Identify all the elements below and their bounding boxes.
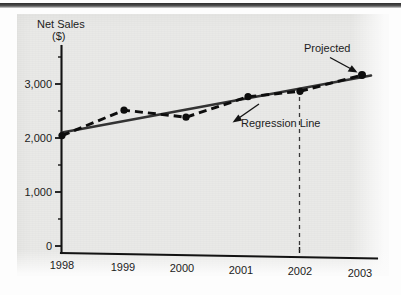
data-point-2000 — [182, 114, 189, 121]
data-point-1999 — [120, 107, 127, 114]
regression-line-series — [62, 76, 371, 133]
projected-annotation-label: Projected — [304, 42, 350, 54]
y-tick-label-1000: 1,000 — [24, 186, 52, 198]
data-point-2001 — [244, 93, 251, 100]
figure-page: Net Sales ($) 3,000 2,000 1,000 0 1998 1… — [0, 0, 401, 295]
y-axis-title-line1: Net Sales — [37, 18, 85, 30]
data-point-1998 — [58, 132, 65, 139]
x-axis-line — [61, 253, 377, 259]
net-sales-line-chart: Net Sales ($) 3,000 2,000 1,000 0 1998 1… — [0, 0, 401, 295]
y-tick-label-3000: 3,000 — [24, 78, 52, 90]
data-point-2003 — [358, 71, 366, 79]
x-tick-label-2002: 2002 — [288, 265, 312, 277]
x-tick-label-1998: 1998 — [50, 259, 74, 271]
y-tick-label-2000: 2,000 — [24, 132, 52, 144]
data-point-2002 — [296, 88, 303, 95]
x-tick-label-2000: 2000 — [170, 262, 194, 274]
projected-annotation-arrowhead — [348, 65, 358, 72]
x-tick-label-1999: 1999 — [111, 261, 135, 273]
regression-line-annotation-label: Regression Line — [241, 117, 321, 129]
x-tick-label-2001: 2001 — [229, 264, 253, 276]
y-tick-label-0: 0 — [46, 240, 52, 252]
x-tick-label-2003: 2003 — [348, 267, 372, 279]
y-axis-title-line2: ($) — [52, 30, 65, 42]
